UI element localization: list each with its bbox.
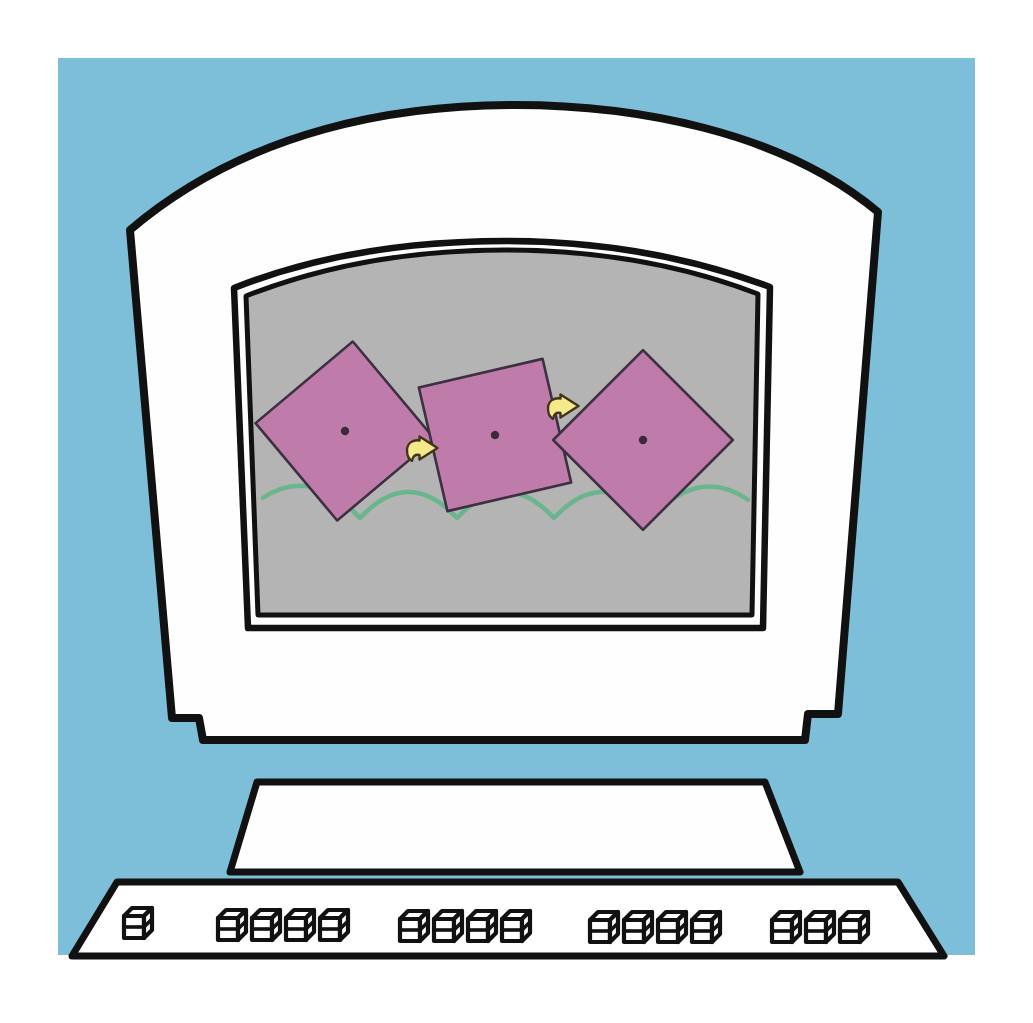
- keyboard-key[interactable]: [124, 908, 152, 938]
- keyboard-key[interactable]: [502, 911, 530, 941]
- keyboard-key[interactable]: [252, 910, 280, 940]
- key-group-function-4[interactable]: [772, 912, 868, 942]
- keyboard-key[interactable]: [218, 910, 246, 940]
- keyboard-key[interactable]: [772, 912, 800, 942]
- keyboard-key[interactable]: [806, 912, 834, 942]
- keyboard-key[interactable]: [468, 911, 496, 941]
- illustration-canvas: Rolling Square on Cycloid Track Cartoon …: [0, 0, 1033, 1023]
- keyboard-key[interactable]: [658, 912, 686, 942]
- keyboard-key[interactable]: [434, 911, 462, 941]
- pink-square-shape: [419, 359, 571, 511]
- keyboard-key[interactable]: [320, 910, 348, 940]
- key-group-escape[interactable]: [124, 908, 152, 938]
- keyboard-key[interactable]: [286, 910, 314, 940]
- keyboard-key[interactable]: [400, 911, 428, 941]
- keyboard-key[interactable]: [624, 912, 652, 942]
- keyboard-key[interactable]: [840, 912, 868, 942]
- keyboard-key[interactable]: [590, 912, 618, 942]
- computer-illustration: [0, 0, 1033, 1023]
- monitor-stand: [230, 782, 800, 872]
- keyboard-key[interactable]: [692, 912, 720, 942]
- square-frame-2[interactable]: [419, 359, 571, 511]
- computer-keyboard[interactable]: [72, 882, 944, 956]
